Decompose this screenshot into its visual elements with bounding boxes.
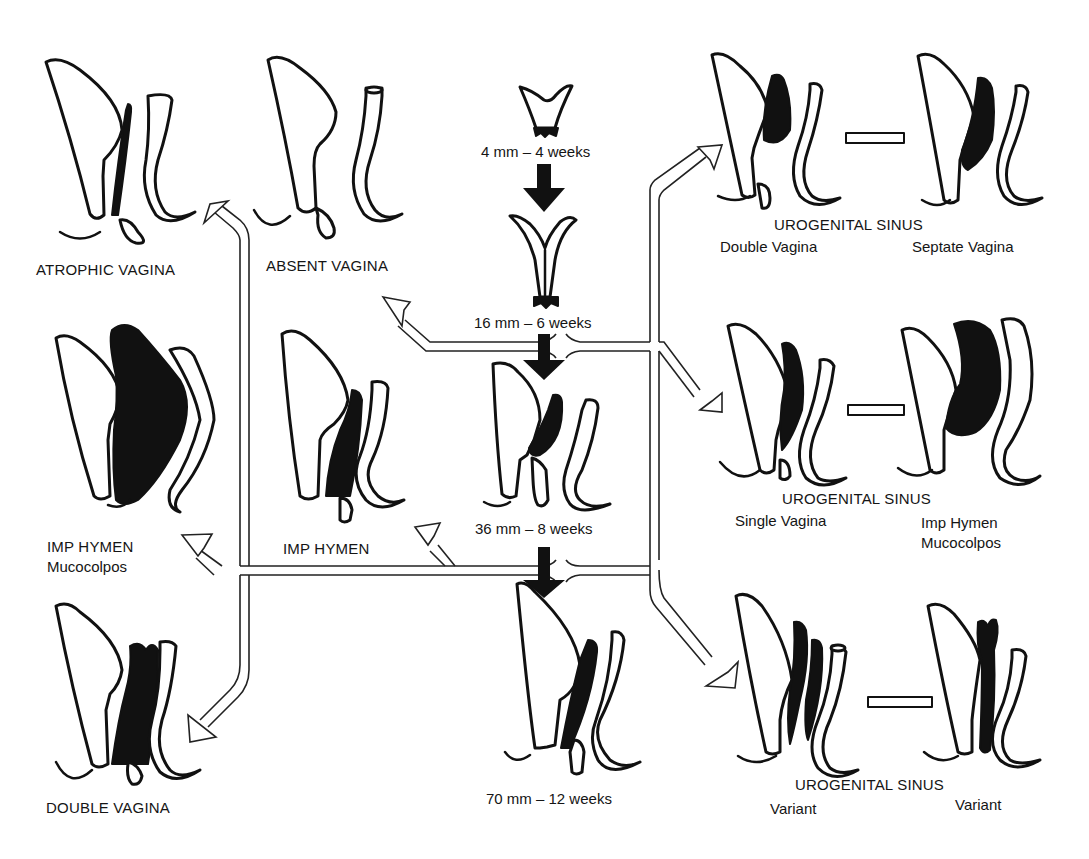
stage1-drawing bbox=[520, 86, 572, 137]
ugs1-left-label: Double Vagina bbox=[720, 238, 817, 256]
arrow-to-imp-hymen-mucocolpos bbox=[182, 534, 212, 556]
arrow-to-atrophic-vagina bbox=[204, 201, 228, 223]
branch-arrow-network bbox=[182, 145, 738, 742]
down-arrow-stage2-3 bbox=[523, 334, 565, 380]
stage4-label: 70 mm – 12 weeks bbox=[486, 790, 612, 808]
ugs3-right-label: Variant bbox=[955, 796, 1001, 814]
absent-vagina-label: ABSENT VAGINA bbox=[266, 257, 388, 275]
imp-hymen-label: IMP HYMEN bbox=[283, 540, 370, 558]
ugs-imp-hymen-mucocolpos-drawing bbox=[898, 319, 1040, 485]
ugs3-left-label: Variant bbox=[770, 800, 816, 818]
stage1-label: 4 mm – 4 weeks bbox=[481, 143, 590, 161]
arrow-to-ugs-variant bbox=[706, 662, 738, 688]
ugs2-title: UROGENITAL SINUS bbox=[782, 490, 931, 508]
double-vagina-drawing bbox=[56, 604, 200, 784]
equivalence-bar-ugs3 bbox=[868, 697, 932, 707]
diagram-canvas: 4 mm – 4 weeks 16 mm – 6 weeks 36 mm – 8… bbox=[0, 0, 1089, 859]
imp-hymen-mucocolpos-label: IMP HYMEN bbox=[47, 538, 134, 556]
atrophic-vagina-label: ATROPHIC VAGINA bbox=[36, 261, 175, 279]
arrow-to-imp-hymen bbox=[415, 523, 440, 545]
stage3-label: 36 mm – 8 weeks bbox=[475, 520, 593, 538]
ugs-variant2-drawing bbox=[924, 604, 1040, 767]
absent-vagina-drawing bbox=[254, 57, 402, 238]
atrophic-vagina-drawing bbox=[46, 60, 195, 243]
stage2-label: 16 mm – 6 weeks bbox=[474, 314, 592, 332]
ugs1-title: UROGENITAL SINUS bbox=[774, 216, 923, 234]
ugs-septate-vagina-drawing bbox=[918, 54, 1042, 205]
imp-hymen-mucocolpos-drawing bbox=[56, 325, 214, 512]
imp-hymen-mucocolpos-sublabel: Mucocolpos bbox=[47, 558, 127, 576]
diagram-artwork bbox=[0, 0, 1089, 859]
ugs-single-vagina-drawing bbox=[720, 324, 846, 485]
ugs2-right-label-line1: Imp Hymen bbox=[921, 514, 998, 532]
ugs3-title: UROGENITAL SINUS bbox=[795, 776, 944, 794]
equivalence-bar-ugs1 bbox=[846, 133, 904, 143]
ugs1-right-label: Septate Vagina bbox=[912, 238, 1013, 256]
equivalence-bar-ugs2 bbox=[848, 405, 904, 415]
stage3-drawing bbox=[484, 363, 610, 510]
ugs-double-vagina-drawing bbox=[712, 54, 840, 208]
arrow-to-ugs-single bbox=[700, 393, 722, 412]
double-vagina-label: DOUBLE VAGINA bbox=[46, 799, 170, 817]
ugs2-right-label-line2: Mucocolpos bbox=[921, 534, 1001, 552]
stage4-drawing bbox=[505, 583, 640, 774]
ugs-variant1-drawing bbox=[736, 594, 858, 776]
stage2-drawing bbox=[510, 216, 576, 308]
ugs2-left-label: Single Vagina bbox=[735, 512, 826, 530]
down-arrow-stage1-2 bbox=[523, 164, 565, 212]
arrow-to-ugs-double-septate bbox=[698, 145, 722, 169]
imp-hymen-drawing bbox=[282, 331, 404, 522]
